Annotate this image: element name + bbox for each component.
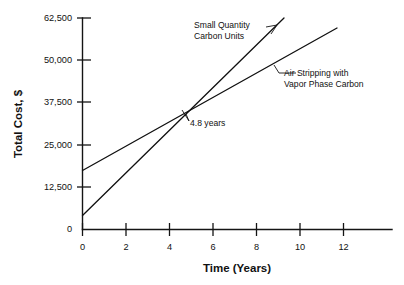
x-tick-label-6: 6 bbox=[210, 242, 215, 252]
annotation-air-stripping-line1: Air Stripping with bbox=[284, 68, 349, 78]
y-tick-label-37500: 37,500 bbox=[44, 97, 72, 107]
y-tick-label-62500: 62,500 bbox=[44, 13, 72, 23]
series-line-small-quantity-carbon bbox=[83, 18, 285, 216]
y-tick-label-25000: 25,000 bbox=[44, 140, 72, 150]
y-axis-title: Total Cost, $ bbox=[12, 89, 24, 158]
x-tick-label-2: 2 bbox=[123, 242, 128, 252]
series-line-air-stripping bbox=[83, 28, 338, 171]
x-tick-label-8: 8 bbox=[254, 242, 259, 252]
y-tick-label-0: 0 bbox=[67, 224, 72, 234]
chart-canvas: 62,500 50,000 37,500 25,000 12,500 0 0 2… bbox=[0, 0, 404, 285]
x-tick-label-12: 12 bbox=[338, 242, 348, 252]
x-axis-title: Time (Years) bbox=[203, 262, 271, 274]
annotation-intersection-years: 4.8 years bbox=[190, 118, 225, 128]
annotation-small-quantity-carbon-line1: Small Quantity bbox=[194, 20, 251, 30]
x-tick-label-0: 0 bbox=[80, 242, 85, 252]
y-tick-label-12500: 12,500 bbox=[44, 182, 72, 192]
annotation-small-quantity-carbon-line2: Carbon Units bbox=[194, 31, 244, 41]
x-tick-label-4: 4 bbox=[167, 242, 172, 252]
y-tick-label-50000: 50,000 bbox=[44, 55, 72, 65]
annotation-air-stripping-line2: Vapor Phase Carbon bbox=[284, 79, 364, 89]
x-tick-label-10: 10 bbox=[295, 242, 305, 252]
cost-comparison-chart: 62,500 50,000 37,500 25,000 12,500 0 0 2… bbox=[0, 0, 404, 285]
